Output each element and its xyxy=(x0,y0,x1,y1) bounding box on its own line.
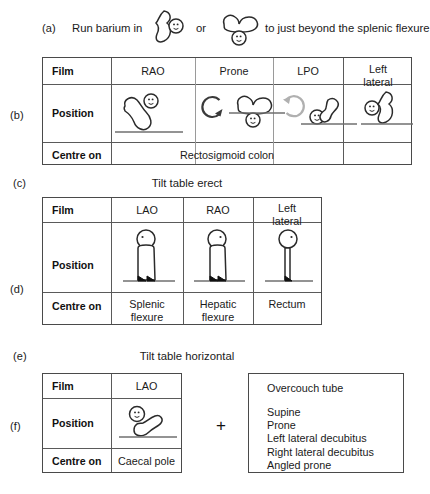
overcouch-tube-items: Supine Prone Left lateral decubitus Righ… xyxy=(267,406,374,472)
patient-rao-recumbent-icon xyxy=(113,90,185,140)
overcouch-tube-box: Overcouch tube Supine Prone Left lateral… xyxy=(248,373,404,473)
table-b-film-prone: Prone xyxy=(195,65,273,78)
table-b-film-lpo: LPO xyxy=(273,65,343,78)
table-d: Film Position Centre on LAO RAO Left lat… xyxy=(42,197,322,325)
rotate-clockwise-arrow xyxy=(195,91,229,125)
table-b-row-label-film: Film xyxy=(52,65,74,77)
step-label-c: (c) xyxy=(13,177,26,189)
table-f: Film Position Centre on LAO Caecal pole xyxy=(42,373,182,473)
table-b-centre-merged: Rectosigmoid colon xyxy=(111,149,343,162)
table-f-row-label-position: Position xyxy=(52,417,94,429)
table-b-film-left-lateral: Left lateral xyxy=(343,63,413,88)
table-f-hline-1 xyxy=(43,398,181,399)
table-b: Film Position Centre on RAO Prone LPO Le… xyxy=(42,57,412,165)
table-d-film-lao: LAO xyxy=(111,204,183,217)
step-label-e: (e) xyxy=(13,350,27,362)
table-d-row-label-position: Position xyxy=(52,259,94,271)
table-f-row-label-centre: Centre on xyxy=(52,455,101,467)
table-d-film-rao: RAO xyxy=(183,204,253,217)
table-d-centre-rectum: Rectum xyxy=(253,298,321,311)
note-tilt-table-horizontal: Tilt table horizontal xyxy=(42,350,332,362)
table-d-row-label-film: Film xyxy=(52,204,74,216)
patient-left-lateral-recumbent-icon xyxy=(359,88,415,140)
table-d-row-label-centre: Centre on xyxy=(52,300,101,312)
table-f-row-label-film: Film xyxy=(52,380,74,392)
patient-prone-icon xyxy=(216,8,266,52)
step-label-f: (f) xyxy=(10,420,21,432)
step-label-d: (d) xyxy=(10,283,24,295)
patient-lpo-recumbent-icon xyxy=(301,92,359,140)
note-tilt-table-erect: Tilt table erect xyxy=(42,177,332,189)
table-b-film-rao: RAO xyxy=(111,65,195,78)
table-d-film-left-lateral: Left lateral xyxy=(253,202,321,227)
table-d-hline-2 xyxy=(43,292,321,293)
step-a-text-middle: or xyxy=(196,22,206,34)
step-label-b: (b) xyxy=(10,109,24,121)
table-f-centre-caecal-pole: Caecal pole xyxy=(111,455,182,468)
table-d-centre-splenic: Splenic flexure xyxy=(111,298,183,323)
plus-sign: + xyxy=(216,417,226,434)
patient-lateral-supine-icon xyxy=(144,6,190,50)
patient-standing-lao-icon xyxy=(121,228,177,290)
patient-lao-recumbent-icon xyxy=(119,402,179,450)
table-b-row-label-position: Position xyxy=(52,107,94,119)
patient-standing-left-lateral-icon xyxy=(263,228,315,290)
table-d-centre-hepatic: Hepatic flexure xyxy=(183,298,253,323)
overcouch-tube-title: Overcouch tube xyxy=(267,382,343,394)
step-a-text-before: Run barium in xyxy=(72,22,142,34)
step-label-a: (a) xyxy=(42,22,56,34)
table-b-row-label-centre: Centre on xyxy=(52,149,101,161)
step-a-text-after: to just beyond the splenic flexure xyxy=(265,22,430,34)
patient-standing-rao-icon xyxy=(193,228,247,290)
table-f-film-lao: LAO xyxy=(111,380,182,393)
table-b-hline-2 xyxy=(43,142,411,143)
